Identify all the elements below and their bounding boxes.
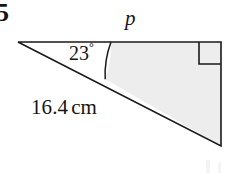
side-label-p: p [125, 8, 136, 29]
triangle-diagram [0, 0, 234, 184]
shaded-region [105, 42, 221, 146]
geometry-figure: 5 p 23° 16.4cm [0, 0, 234, 184]
scan-artifact [218, 162, 221, 173]
hypotenuse-label: 16.4cm [31, 97, 97, 118]
question-number: 5 [0, 0, 9, 26]
angle-value: 23 [69, 42, 89, 64]
hypotenuse-value: 16.4 [31, 95, 68, 119]
degree-symbol-icon: ° [89, 40, 94, 54]
angle-label: 23° [69, 42, 94, 63]
hypotenuse-unit: cm [71, 95, 97, 119]
scan-artifact [206, 160, 210, 173]
